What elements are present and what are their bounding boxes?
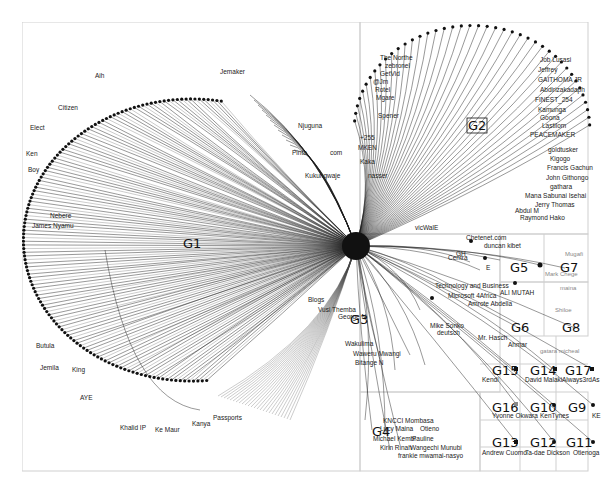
svg-text:Bitange N: Bitange N [355, 359, 384, 367]
svg-text:Spener: Spener [378, 112, 400, 120]
group-label-g2: G2 [468, 118, 486, 133]
svg-text:Pauline: Pauline [412, 435, 434, 442]
svg-text:GAITHOMA JR: GAITHOMA JR [538, 76, 582, 83]
group-label-g6: G6 [511, 320, 529, 335]
svg-text:GetVid: GetVid [380, 70, 400, 77]
group-label-g8: G8 [562, 320, 580, 335]
svg-text:Otieno: Otieno [420, 425, 440, 432]
svg-text:Wangechi Munubi: Wangechi Munubi [410, 444, 462, 452]
group-label-g9: G9 [568, 400, 586, 415]
svg-text:Mgare: Mgare [376, 94, 395, 102]
svg-text:zebronel: zebronel [385, 62, 410, 69]
svg-text:ALI MUTAH: ALI MUTAH [500, 289, 534, 296]
svg-text:duncan kibet: duncan kibet [484, 242, 521, 249]
svg-text:James Nyamu: James Nyamu [32, 222, 74, 230]
svg-text:goldtusker: goldtusker [548, 146, 579, 154]
svg-text:Mugafi: Mugafi [565, 251, 583, 257]
svg-text:Mr. Hasch: Mr. Hasch [478, 334, 508, 341]
svg-text:vicWalE: vicWalE [415, 224, 439, 231]
svg-text:Abdul M: Abdul M [515, 207, 539, 214]
svg-text:gatara micheal: gatara micheal [540, 348, 579, 354]
svg-text:Boy: Boy [28, 166, 40, 174]
svg-text:Njuguna: Njuguna [298, 122, 323, 130]
group-label-g1: G1 [183, 236, 201, 251]
svg-text:Jemaker: Jemaker [220, 68, 246, 75]
svg-text:Amrote Abdella: Amrote Abdella [468, 300, 512, 307]
group-label-g5: G5 [510, 260, 528, 275]
group-label-g3: G3 [350, 312, 368, 327]
svg-text:GH: GH [456, 250, 466, 257]
svg-text:FINEST_254: FINEST_254 [535, 96, 573, 104]
svg-text:Ken: Ken [26, 150, 38, 157]
svg-text:Pinta: Pinta [292, 149, 307, 156]
svg-text:KNCCI Mombasa: KNCCI Mombasa [383, 417, 434, 424]
hub-node[interactable] [342, 232, 370, 260]
svg-text:AYE: AYE [80, 394, 93, 401]
svg-text:King: King [72, 366, 85, 374]
svg-text:Shiloe: Shiloe [555, 307, 572, 313]
svg-text:Ta-dae Dickson: Ta-dae Dickson [525, 449, 570, 456]
svg-text:Butula: Butula [36, 342, 55, 349]
svg-text:Jeffrey: Jeffrey [538, 66, 558, 74]
svg-text:Job Lusasi: Job Lusasi [540, 56, 571, 63]
svg-text:Nebere: Nebere [50, 212, 72, 219]
svg-text:Ahmar: Ahmar [508, 341, 528, 348]
svg-text:Goona: Goona [540, 114, 560, 121]
svg-text:Citizen: Citizen [58, 104, 78, 111]
svg-text:nasser: nasser [368, 172, 388, 179]
svg-text:Jemila: Jemila [40, 364, 59, 371]
svg-text:Francis Gachun: Francis Gachun [547, 164, 593, 171]
svg-text:Aih: Aih [95, 72, 105, 79]
svg-text:PEACEMAKER: PEACEMAKER [530, 131, 575, 138]
svg-text:Khalid IP: Khalid IP [120, 424, 146, 431]
svg-text:The Northe: The Northe [380, 54, 413, 61]
svg-text:Mike Sonko: Mike Sonko [430, 322, 464, 329]
svg-text:Otienoga: Otienoga [573, 449, 600, 457]
svg-text:gathara: gathara [550, 183, 572, 191]
group-label-g11: G11 [566, 435, 593, 450]
svg-text:Kanya: Kanya [192, 420, 211, 428]
svg-text:maina: maina [560, 285, 577, 291]
svg-text:John Githongo: John Githongo [546, 174, 589, 182]
svg-text:frankie mwamai-nasyo: frankie mwamai-nasyo [398, 452, 463, 460]
svg-text:Kamunga: Kamunga [538, 106, 566, 114]
group-label-g10: G10 [530, 400, 557, 415]
svg-text:Abdirizakadaph: Abdirizakadaph [540, 86, 585, 94]
svg-text:E: E [486, 264, 491, 271]
svg-text:MKEN: MKEN [358, 144, 377, 151]
svg-text:@Jm: @Jm [373, 78, 388, 85]
svg-text:Kaka: Kaka [360, 158, 375, 165]
svg-text:Kirin Rinah: Kirin Rinah [380, 444, 412, 451]
group-label-g7: G7 [560, 260, 578, 275]
svg-text:Waweru Mwangi: Waweru Mwangi [353, 350, 401, 358]
svg-text:Raymond Hako: Raymond Hako [520, 214, 565, 222]
g2-node-labels: The NorthezebronelGetVid@JmRotelMgareSpe… [358, 54, 593, 231]
svg-text:Jerry Thomas: Jerry Thomas [535, 201, 575, 209]
svg-text:deutsch: deutsch [437, 329, 460, 336]
svg-text:com: com [330, 149, 342, 156]
svg-text:Andrew Cuomo: Andrew Cuomo [482, 449, 527, 456]
svg-text:Blogs: Blogs [308, 296, 325, 304]
svg-text:Mana Sabunai Isehai: Mana Sabunai Isehai [525, 192, 586, 199]
svg-text:Kigogo: Kigogo [550, 155, 571, 163]
svg-text:Technology and Business: Technology and Business [435, 282, 509, 290]
svg-text:Ke Maur: Ke Maur [155, 426, 180, 433]
svg-text:KE: KE [592, 412, 601, 419]
svg-text:Kukungwaje: Kukungwaje [305, 172, 341, 180]
svg-text:Wakulima: Wakulima [345, 340, 374, 347]
svg-text:Lastilom: Lastilom [542, 122, 566, 129]
svg-text:Passports: Passports [213, 414, 243, 422]
network-graph-canvas: AihJemakerCitizenElectKenBoyJames NyamuN… [22, 22, 607, 472]
other-node-labels: Chetenet.comduncan kibetMicrosoft 4Afric… [308, 234, 601, 460]
group-label-g4: G4 [372, 424, 390, 439]
svg-text:+255: +255 [360, 134, 375, 141]
group-label-g14: G14 [530, 363, 557, 378]
group-label-g17: G17 [565, 363, 592, 378]
network-graph-frame: AihJemakerCitizenElectKenBoyJames NyamuN… [22, 22, 607, 472]
svg-text:Elect: Elect [30, 124, 45, 131]
svg-text:Rotel: Rotel [375, 86, 391, 93]
svg-text:Microsoft 4Africa: Microsoft 4Africa [448, 292, 497, 299]
